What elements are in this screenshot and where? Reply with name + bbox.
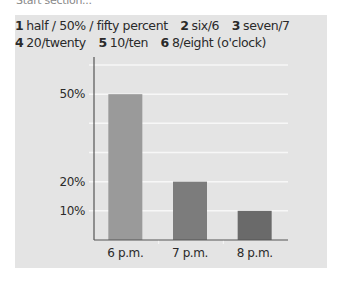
y-tick-label: 20% [60, 175, 85, 189]
x-tick-labels: 6 p.m.7 p.m.8 p.m. [107, 246, 272, 260]
y-tick-label: 10% [60, 204, 85, 218]
y-tick-labels: 50%20%10% [60, 87, 85, 218]
x-tick-label: 7 p.m. [172, 246, 208, 260]
bar [108, 94, 142, 240]
y-tick-label: 50% [60, 87, 85, 101]
x-tick-label: 6 p.m. [107, 246, 143, 260]
bar [238, 211, 272, 240]
x-tick-label: 8 p.m. [237, 246, 273, 260]
bars [108, 94, 271, 244]
bar [173, 182, 207, 240]
bar-chart: 50%20%10% 6 p.m.7 p.m.8 p.m. [0, 0, 337, 281]
